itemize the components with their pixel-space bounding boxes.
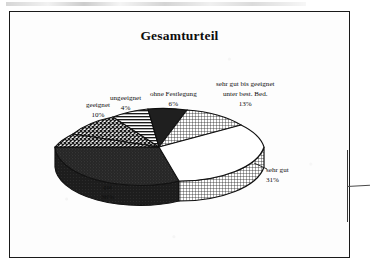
pie-label-ohne-festlegung-name: ohne Festlegung [150, 89, 197, 99]
pie-label-gut-name: gut [101, 182, 114, 192]
pie-label-sehr-gut-bis-geeignet-line2: unter best. Bed. [216, 89, 275, 99]
chart-title: Gesamturteil [10, 28, 349, 44]
pie-label-geeignet-name: geeignet [86, 100, 110, 110]
pie-label-sehr-gut-bis-geeignet-pct: 13% [216, 99, 275, 109]
pie-label-gut-pct: 36% [101, 192, 114, 202]
pie-label-ungeeignet-name: ungeeignet [110, 93, 141, 103]
pie-label-sehrgut-name: sehr gut [266, 165, 289, 175]
pie-label-gut: gut 36% [101, 182, 114, 202]
chart-frame: Gesamturteil [9, 11, 350, 258]
scan-artifact-right-tick [347, 185, 370, 187]
pie-label-sehr-gut-bis-geeignet: sehr gut bis geeignet unter best. Bed. 1… [216, 79, 275, 109]
pie-label-geeignet: geeignet 10% [86, 100, 110, 120]
pie-label-ohne-festlegung: ohne Festlegung 6% [150, 89, 197, 109]
scan-artifact-top [6, 2, 306, 6]
pie-label-ungeeignet: ungeeignet 4% [110, 93, 141, 113]
pie-label-sehrgut: sehr gut 31% [266, 165, 289, 185]
pie-label-geeignet-pct: 10% [86, 110, 110, 120]
pie-label-sehr-gut-bis-geeignet-line1: sehr gut bis geeignet [216, 79, 275, 89]
pie-label-ungeeignet-pct: 4% [110, 103, 141, 113]
pie-label-sehrgut-pct: 31% [266, 175, 289, 185]
pie-label-ohne-festlegung-pct: 6% [150, 99, 197, 109]
